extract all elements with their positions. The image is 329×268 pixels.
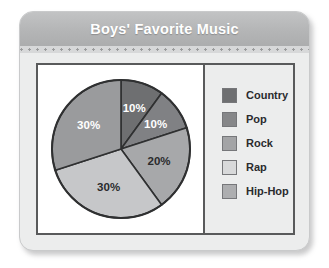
chart-panel: 10%10%20%30%30% CountryPopRockRapHip-Hop xyxy=(36,63,295,235)
legend-item[interactable]: Country xyxy=(222,87,289,103)
pie-chart: 10%10%20%30%30% xyxy=(50,78,192,220)
pie-slice-label: 10% xyxy=(144,118,167,130)
chart-card-root: Boys' Favorite Music 10%10%20%30%30% Cou… xyxy=(0,0,329,268)
legend-item-label: Rap xyxy=(246,161,267,173)
legend-pane: CountryPopRockRapHip-Hop xyxy=(205,65,293,233)
legend-item[interactable]: Rock xyxy=(222,135,289,151)
legend-item[interactable]: Hip-Hop xyxy=(222,183,289,199)
legend-item-label: Country xyxy=(246,89,288,101)
legend-swatch-icon xyxy=(222,160,237,175)
pie-slice-label: 10% xyxy=(122,102,145,114)
pie-chart-svg: 10%10%20%30%30% xyxy=(50,78,192,220)
legend-swatch-icon xyxy=(222,88,237,103)
card-header: Boys' Favorite Music xyxy=(20,12,309,46)
pie-chart-pane: 10%10%20%30%30% xyxy=(38,65,205,233)
legend-swatch-icon xyxy=(222,112,237,127)
chart-card: Boys' Favorite Music 10%10%20%30%30% Cou… xyxy=(19,11,310,251)
legend-item-label: Pop xyxy=(246,113,267,125)
legend-item-label: Rock xyxy=(246,137,273,149)
page-title: Boys' Favorite Music xyxy=(90,21,238,37)
pie-slice-label: 30% xyxy=(77,119,100,131)
pie-slice-label: 20% xyxy=(147,155,170,167)
legend-item[interactable]: Pop xyxy=(222,111,289,127)
legend: CountryPopRockRapHip-Hop xyxy=(222,87,289,199)
legend-swatch-icon xyxy=(222,184,237,199)
legend-item[interactable]: Rap xyxy=(222,159,289,175)
legend-item-label: Hip-Hop xyxy=(246,185,289,197)
dotted-divider xyxy=(20,46,309,53)
pie-slice-label: 30% xyxy=(97,181,120,193)
legend-swatch-icon xyxy=(222,136,237,151)
